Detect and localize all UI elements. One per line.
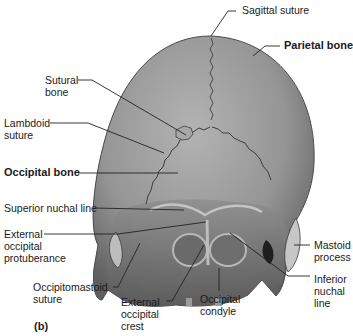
label-occipital-bone: Occipital bone (4, 166, 80, 178)
right-condyle-fossa (210, 234, 246, 266)
leader-sagittal (211, 11, 236, 36)
figure-letter: (b) (34, 320, 48, 332)
left-condyle-fossa (173, 234, 207, 266)
left-condyle-tip (186, 298, 192, 306)
label-sutural-bone: Sutural bone (45, 74, 78, 98)
label-external-occipital-protuberance: External occipital protuberance (4, 228, 66, 264)
label-parietal-bone: Parietal bone (284, 39, 353, 51)
label-occipitomastoid-suture: Occipitomastoid suture (33, 281, 108, 305)
label-mastoid-process: Mastoid process (314, 239, 351, 263)
label-lambdoid-suture: Lambdoid suture (4, 117, 50, 141)
label-sagittal-suture: Sagittal suture (242, 4, 309, 16)
label-inferior-nuchal-line: Inferior nuchal line (314, 273, 347, 309)
external-occipital-crest-ridge (207, 220, 208, 265)
label-external-occipital-crest: External occipital crest (121, 296, 160, 332)
label-occipital-condyle: Occipital condyle (200, 293, 240, 317)
label-superior-nuchal-line: Superior nuchal line (4, 202, 97, 214)
